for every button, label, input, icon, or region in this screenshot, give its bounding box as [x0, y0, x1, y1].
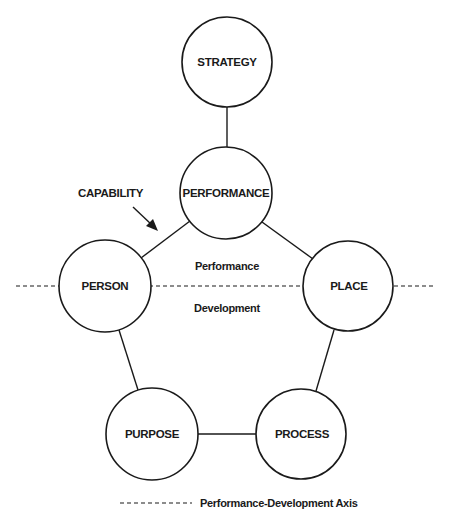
- node-purpose-label: PURPOSE: [125, 428, 180, 440]
- node-strategy: STRATEGY: [182, 17, 272, 107]
- capability-diagram: STRATEGY PERFORMANCE PERSON PLACE PURPOS…: [0, 0, 452, 526]
- legend-axis-label: Performance-Development Axis: [200, 497, 358, 509]
- node-process: PROCESS: [256, 389, 346, 479]
- node-purpose: PURPOSE: [106, 388, 198, 480]
- edge-place-process: [316, 330, 334, 391]
- edge-performance-place: [262, 222, 313, 259]
- node-performance: PERFORMANCE: [180, 147, 272, 239]
- node-person: PERSON: [59, 240, 151, 332]
- node-person-label: PERSON: [82, 280, 129, 292]
- node-strategy-label: STRATEGY: [197, 56, 257, 68]
- region-label-performance: Performance: [195, 260, 259, 272]
- edge-person-purpose: [119, 330, 138, 390]
- capability-label: CAPABILITY: [78, 187, 144, 199]
- capability-arrow-icon: [133, 207, 158, 231]
- node-performance-label: PERFORMANCE: [183, 187, 270, 199]
- node-place-label: PLACE: [330, 280, 368, 292]
- node-process-label: PROCESS: [275, 428, 330, 440]
- node-place: PLACE: [303, 241, 393, 331]
- region-label-development: Development: [194, 302, 260, 314]
